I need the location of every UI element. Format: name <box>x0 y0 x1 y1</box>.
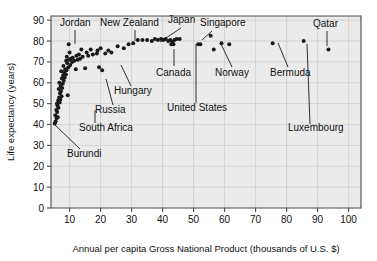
scatter-plot-figure: 0102030405060708090 10203040506070809010… <box>0 0 377 261</box>
data-point <box>140 38 144 42</box>
data-point <box>198 42 202 46</box>
annotation-label-hungary: Hungary <box>114 85 152 96</box>
data-point <box>271 41 275 45</box>
data-point <box>127 42 131 46</box>
y-tick-label: 50 <box>33 98 45 109</box>
annotation-label-new-zealand: New Zealand <box>100 17 159 28</box>
data-point <box>91 53 95 57</box>
y-tick-label: 0 <box>38 203 44 214</box>
data-point <box>326 47 330 51</box>
annotation-label-luxembourg: Luxembourg <box>288 122 344 133</box>
data-point <box>77 53 81 57</box>
x-tick-label: 30 <box>126 214 138 225</box>
data-point <box>68 51 72 55</box>
annotation-label-burundi: Burundi <box>67 148 101 159</box>
y-tick-label: 80 <box>33 36 45 47</box>
annotation-label-qatar: Qatar <box>313 18 339 29</box>
data-point <box>85 51 89 55</box>
y-tick-label: 20 <box>33 161 45 172</box>
data-point <box>83 66 87 70</box>
x-axis-title: Annual per capita Gross National Product… <box>72 243 339 254</box>
data-point <box>67 42 71 46</box>
y-tick-label: 40 <box>33 119 45 130</box>
y-tick-label: 70 <box>33 56 45 67</box>
data-point <box>302 39 306 43</box>
data-point <box>65 55 69 59</box>
y-tick-label: 90 <box>33 15 45 26</box>
annotation-label-singapore: Singapore <box>200 17 246 28</box>
annotation-label-jordan: Jordan <box>60 17 91 28</box>
chart-canvas: 0102030405060708090 10203040506070809010… <box>0 0 377 261</box>
x-tick-label: 100 <box>340 214 357 225</box>
data-point <box>57 81 61 85</box>
data-point <box>227 42 231 46</box>
data-point <box>79 47 83 51</box>
x-tick-label: 90 <box>312 214 324 225</box>
data-point <box>106 48 110 52</box>
x-tick-label: 70 <box>250 214 262 225</box>
x-tick-label: 10 <box>64 214 76 225</box>
data-point <box>136 38 140 42</box>
annotation-label-south-africa: South Africa <box>79 122 133 133</box>
data-point <box>116 44 120 48</box>
data-point <box>81 55 85 59</box>
x-tick-label: 50 <box>188 214 200 225</box>
data-point <box>61 64 65 68</box>
y-axis-title: Life expectancy (years) <box>5 63 16 161</box>
data-point <box>103 52 107 56</box>
annotation-label-norway: Norway <box>215 67 249 78</box>
data-point <box>145 38 149 42</box>
x-tick-label: 80 <box>281 214 293 225</box>
data-point <box>66 93 70 97</box>
x-tick-label: 20 <box>95 214 107 225</box>
data-point <box>209 34 213 38</box>
y-tick-label: 60 <box>33 77 45 88</box>
data-point <box>171 42 175 46</box>
data-point <box>122 46 126 50</box>
data-point <box>71 56 75 60</box>
data-point <box>178 37 182 41</box>
annotation-label-russia: Russia <box>95 104 126 115</box>
y-tick-label: 10 <box>33 182 45 193</box>
data-point <box>74 67 78 71</box>
annotation-label-canada: Canada <box>156 67 191 78</box>
data-point <box>99 46 103 50</box>
data-point <box>97 65 101 69</box>
x-tick-label: 40 <box>157 214 169 225</box>
data-point <box>89 47 93 51</box>
annotation-label-united-states: United States <box>167 102 227 113</box>
data-point <box>59 69 63 73</box>
annotation-label-bermuda: Bermuda <box>270 67 311 78</box>
annotation-label-japan: Japan <box>168 14 195 25</box>
data-point <box>212 47 216 51</box>
data-point <box>131 41 135 45</box>
data-point <box>100 68 104 72</box>
y-tick-label: 30 <box>33 140 45 151</box>
x-tick-label: 60 <box>219 214 231 225</box>
